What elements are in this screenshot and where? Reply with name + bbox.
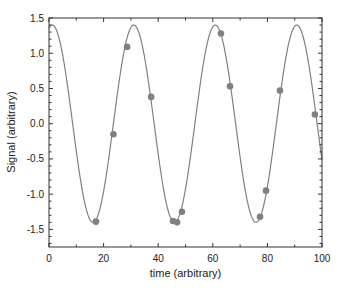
y-tick-label: -1.0 <box>27 189 45 200</box>
x-axis-label: time (arbitrary) <box>150 267 222 279</box>
data-point <box>179 208 186 215</box>
axes-frame <box>49 18 322 247</box>
data-point <box>257 213 264 220</box>
data-point <box>312 111 319 118</box>
data-point <box>227 83 234 90</box>
y-axis-label: Signal (arbitrary) <box>5 91 17 172</box>
y-tick-label: -0.5 <box>27 153 45 164</box>
fit-curve <box>49 25 322 222</box>
x-tick-label: 40 <box>153 253 165 264</box>
data-points <box>93 30 319 225</box>
data-point <box>263 187 270 194</box>
x-tick-label: 20 <box>98 253 110 264</box>
data-point <box>174 219 181 226</box>
chart: 020406080100 -1.5-1.0-0.50.00.51.01.5 ti… <box>0 0 341 290</box>
x-tick-label: 100 <box>314 253 331 264</box>
x-tick-label: 60 <box>207 253 219 264</box>
y-tick-label: -1.5 <box>27 224 45 235</box>
data-point <box>93 218 100 225</box>
y-axis: -1.5-1.0-0.50.00.51.01.5 <box>27 13 322 244</box>
x-axis: 020406080100 <box>46 18 331 264</box>
data-point <box>277 87 284 94</box>
data-point <box>110 131 117 138</box>
y-tick-label: 1.0 <box>30 48 44 59</box>
fit-line <box>49 25 322 222</box>
y-tick-label: 0.0 <box>30 118 44 129</box>
x-tick-label: 0 <box>46 253 52 264</box>
y-tick-label: 0.5 <box>30 83 44 94</box>
data-point <box>124 44 131 51</box>
y-tick-label: 1.5 <box>30 13 44 24</box>
data-point <box>218 30 225 37</box>
data-point <box>148 94 155 101</box>
x-tick-label: 80 <box>262 253 274 264</box>
